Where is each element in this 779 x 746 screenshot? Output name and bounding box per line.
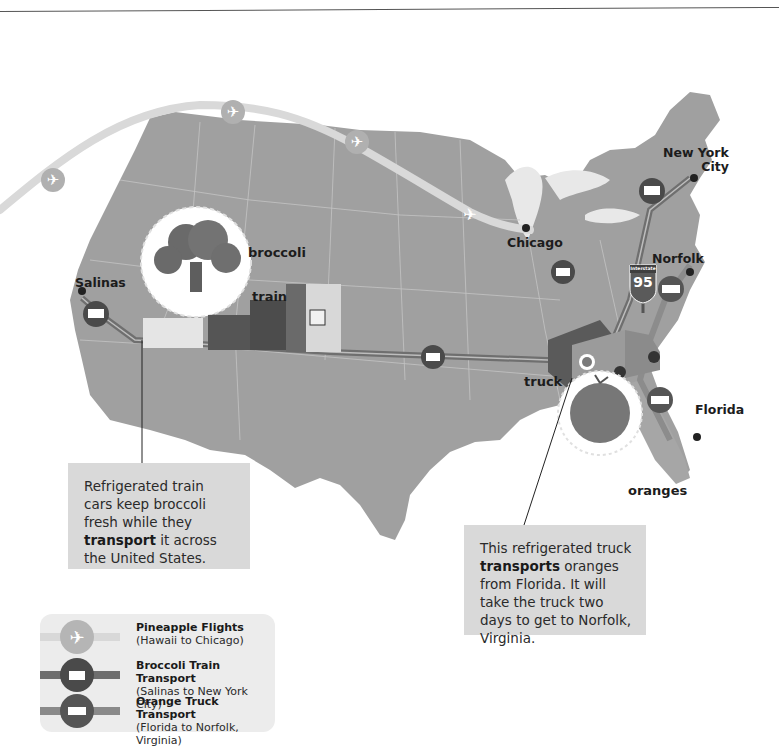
svg-text:✈: ✈ <box>463 205 476 224</box>
city-label-new-york-line1: New York <box>663 146 729 160</box>
train-marker <box>83 301 109 327</box>
legend-item-broccoli-train: Broccoli Train Transport (Salinas to New… <box>40 658 275 694</box>
interstate-sign-number: 95 <box>630 274 656 290</box>
airplane-marker: ✈ <box>221 100 245 124</box>
city-label-salinas: Salinas <box>75 276 126 290</box>
svg-text:✈: ✈ <box>227 103 240 121</box>
train-callout-bold: transport <box>84 532 156 548</box>
legend-title: Broccoli Train Transport <box>136 659 275 685</box>
airplane-icon: ✈ <box>60 620 94 654</box>
train-callout: Refrigerated train cars keep broccoli fr… <box>68 463 250 569</box>
train-callout-text-pre: Refrigerated train cars keep broccoli fr… <box>84 478 206 530</box>
label-broccoli: broccoli <box>248 246 306 260</box>
legend-subtitle: (Florida to Norfolk, Virginia) <box>136 721 275 746</box>
city-dot-new-york <box>690 174 698 182</box>
city-label-norfolk: Norfolk <box>652 252 704 266</box>
svg-text:✈: ✈ <box>351 133 364 151</box>
truck-marker <box>658 276 684 302</box>
city-dot-chicago <box>522 224 530 232</box>
label-train: train <box>252 290 287 304</box>
city-dot-florida <box>693 433 701 441</box>
airplane-marker: ✈ <box>345 130 369 154</box>
train-icon <box>60 658 94 692</box>
legend-item-pineapple-flights: ✈ Pineapple Flights (Hawaii to Chicago) <box>40 620 275 656</box>
legend-text: Orange Truck Transport (Florida to Norfo… <box>136 695 275 746</box>
legend-item-orange-truck: Orange Truck Transport (Florida to Norfo… <box>40 694 275 730</box>
truck-callout: This refrigerated truck transports orang… <box>464 525 646 635</box>
legend-text: Pineapple Flights (Hawaii to Chicago) <box>136 621 244 647</box>
city-label-new-york: New York City <box>663 146 729 174</box>
legend-subtitle: (Hawaii to Chicago) <box>136 634 244 647</box>
svg-text:✈: ✈ <box>47 171 60 189</box>
train-marker <box>551 260 575 284</box>
interstate-sign-top: Interstate <box>630 265 656 273</box>
legend-title: Pineapple Flights <box>136 621 244 634</box>
city-label-new-york-line2: City <box>663 160 729 174</box>
airplane-marker: ✈ <box>41 168 65 192</box>
label-oranges: oranges <box>628 484 687 498</box>
map-legend: ✈ Pineapple Flights (Hawaii to Chicago) … <box>40 614 275 732</box>
train-marker <box>421 345 445 369</box>
broccoli-illustration <box>141 207 251 317</box>
legend-title: Orange Truck Transport <box>136 695 275 721</box>
truck-marker <box>647 387 673 413</box>
train-marker <box>639 178 665 204</box>
city-dot-norfolk <box>686 268 694 276</box>
state-label-florida: Florida <box>695 403 744 417</box>
label-truck: truck <box>524 375 562 389</box>
airplane-marker: ✈ <box>463 205 476 224</box>
truck-callout-text-pre: This refrigerated truck <box>480 540 631 556</box>
city-label-chicago: Chicago <box>507 236 563 250</box>
truck-icon <box>60 694 94 728</box>
truck-callout-bold: transports <box>480 558 560 574</box>
